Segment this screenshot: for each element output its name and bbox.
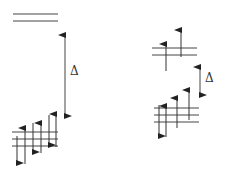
- left-delta-label: Δ: [70, 65, 79, 77]
- right-upper-levels: [152, 48, 197, 55]
- left-lower-levels: [12, 132, 58, 146]
- right-lower-electron-arrows: [159, 90, 189, 137]
- left-upper-levels: [13, 14, 58, 21]
- splitting-diagram: [0, 0, 226, 171]
- right-delta-label: Δ: [205, 72, 214, 84]
- right-upper-electron-arrows: [166, 30, 181, 71]
